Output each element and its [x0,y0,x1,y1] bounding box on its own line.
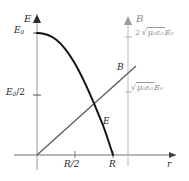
tick-label-R-half: R/2 [64,160,80,169]
y-axis-right-label: B [136,14,143,24]
tick-label-E0-half-tail: /2 [16,87,25,97]
y-axis-right-arrow [124,16,132,25]
radical-sign-icon: √ [140,28,147,37]
tick-label-E0-main: E [14,25,21,35]
y-axis-left-arrow [33,14,41,23]
tick-label-one-root: √μ₀ε₀E₀ [131,84,163,92]
y-axis-left-label: E [24,14,31,24]
curve-E-path [37,33,113,155]
two-root-radicand: μ₀ε₀ [147,27,165,37]
tick-label-E0-sub: 0 [21,29,25,35]
tick-label-E0-half-main: E [6,87,13,97]
x-axis-label: r [167,160,171,169]
one-root-radicand: μ₀ε₀ [136,82,154,92]
curve-B-line [37,66,136,155]
tick-label-E0: E0 [14,26,24,36]
curve-label-B: B [117,63,124,72]
field-plot-figure: E B r E0 E0/2 2 √μ₀ε₀E₀ √μ₀ε₀E₀ R/2 R B … [0,0,189,181]
x-axis-arrow [169,152,176,158]
tick-label-R: R [109,160,116,169]
tick-label-two-root: 2 √μ₀ε₀E₀ [135,29,174,37]
curve-label-E: E [103,117,110,126]
tick-label-E0-half: E0/2 [6,88,25,98]
one-root-factor: E₀ [154,83,163,92]
two-root-factor: E₀ [165,28,174,37]
